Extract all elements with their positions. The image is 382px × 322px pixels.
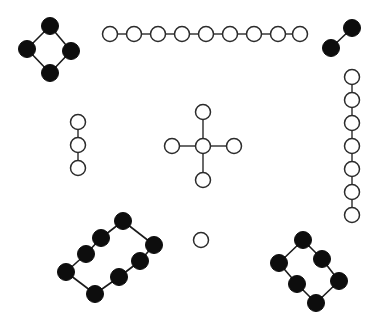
graph-node-open [196, 105, 211, 120]
node-group [345, 70, 360, 223]
graph-node-filled [344, 20, 361, 37]
graph-node-filled [58, 264, 75, 281]
graph-node-filled [87, 286, 104, 303]
node-group [19, 18, 80, 82]
graph-component-five-node-star-graph [165, 105, 242, 188]
edge-group [279, 240, 339, 303]
graph-node-open [223, 27, 238, 42]
graph-figure [0, 0, 382, 322]
graph-component-six-node-cycle-filled [271, 232, 348, 312]
graph-component-isolated-single-node [194, 233, 209, 248]
graph-node-filled [295, 232, 312, 249]
graph-node-open [293, 27, 308, 42]
graph-component-two-node-edge-filled [323, 20, 361, 57]
graph-node-open [227, 139, 242, 154]
graph-node-filled [323, 40, 340, 57]
graph-node-filled [115, 213, 132, 230]
graph-node-open [345, 93, 360, 108]
graph-node-filled [289, 276, 306, 293]
node-group [194, 233, 209, 248]
graph-node-filled [42, 18, 59, 35]
graph-node-open [175, 27, 190, 42]
graph-node-open [345, 139, 360, 154]
graph-node-filled [42, 65, 59, 82]
node-group [58, 213, 163, 303]
graph-node-open [71, 161, 86, 176]
graph-node-filled [314, 251, 331, 268]
graph-node-open [345, 208, 360, 223]
graph-node-filled [132, 253, 149, 270]
graph-node-open [151, 27, 166, 42]
graph-node-filled [63, 43, 80, 60]
graph-node-filled [19, 41, 36, 58]
graph-node-filled [93, 230, 110, 247]
graph-component-four-node-cycle-filled [19, 18, 80, 82]
graph-node-filled [146, 237, 163, 254]
node-group [165, 105, 242, 188]
graph-node-open [71, 138, 86, 153]
graph-node-open [196, 173, 211, 188]
graph-node-open [271, 27, 286, 42]
graph-canvas [0, 0, 382, 322]
graph-node-filled [271, 255, 288, 272]
graph-node-open [165, 139, 180, 154]
graph-node-filled [331, 273, 348, 290]
graph-node-filled [111, 269, 128, 286]
node-group [271, 232, 348, 312]
graph-node-open [345, 70, 360, 85]
graph-component-three-node-vertical-path [71, 115, 86, 176]
graph-node-filled [308, 295, 325, 312]
graph-node-open [103, 27, 118, 42]
graph-node-open [194, 233, 209, 248]
graph-component-nine-node-horizontal-path [103, 27, 308, 42]
graph-node-filled [78, 246, 95, 263]
graph-node-open [247, 27, 262, 42]
graph-node-open [345, 116, 360, 131]
node-group [71, 115, 86, 176]
graph-component-seven-node-vertical-path [345, 70, 360, 223]
graph-node-open [345, 185, 360, 200]
graph-component-eight-node-cycle-filled [58, 213, 163, 303]
graph-node-open [71, 115, 86, 130]
graph-node-open [127, 27, 142, 42]
graph-node-open [199, 27, 214, 42]
node-group [103, 27, 308, 42]
graph-node-open [345, 162, 360, 177]
graph-node-open [196, 139, 211, 154]
